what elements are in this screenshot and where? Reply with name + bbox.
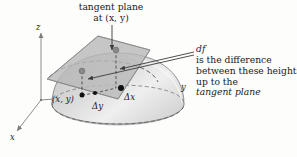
axis-x-line [17, 100, 41, 131]
note-line-3: up to the tangent plane [196, 77, 297, 99]
base-point-label: (x, y) [52, 94, 74, 104]
axis-z-label: z [36, 23, 40, 33]
title-label: tangent plane at (x, y) [63, 2, 159, 24]
plane-point-left-gray [79, 68, 85, 74]
title-line-2: at (x, y) [63, 13, 159, 24]
note-df-italic: df [196, 43, 205, 54]
origin-dot [40, 99, 42, 101]
base-point-xy-dot [80, 93, 85, 98]
axis-y-label: y [181, 83, 186, 93]
note-line-1: df is the difference [196, 44, 297, 66]
delta-corner-dot [93, 91, 97, 95]
surface-point-dot [118, 85, 124, 91]
delta-x-label: Δx [124, 92, 135, 102]
note-label: df is the difference between these heigh… [196, 44, 297, 98]
tangent-plane-figure: tangent plane at (x, y) df is the differ… [0, 0, 297, 157]
delta-y-label: Δy [92, 101, 103, 111]
note-tangent-plane-italic: tangent plane [196, 86, 261, 97]
note-line-2: between these heights [196, 66, 297, 77]
axis-x-label: x [10, 133, 15, 143]
title-line-1: tangent plane [79, 1, 144, 12]
plane-point-right-gray [113, 47, 119, 53]
